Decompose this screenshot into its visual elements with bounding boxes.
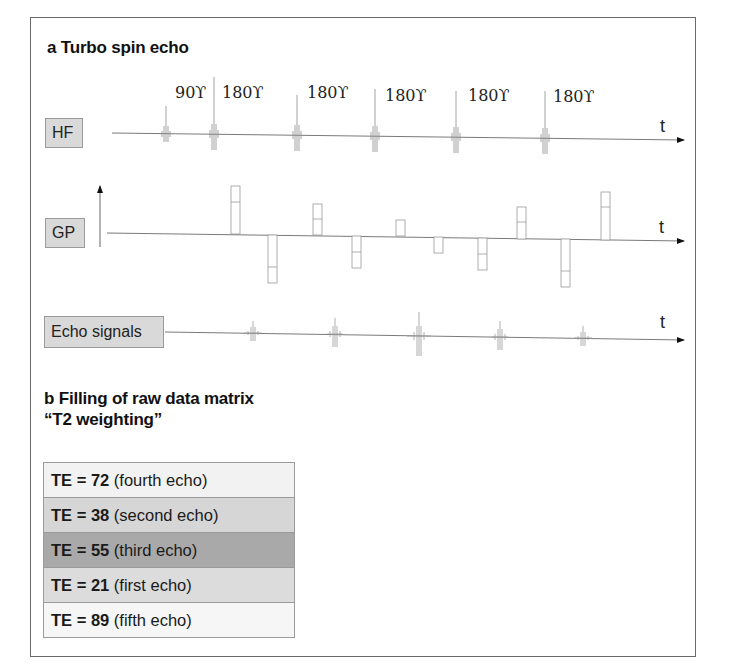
te-prefix: TE = bbox=[51, 611, 91, 629]
te-row-second-echo: TE = 38 (second echo) bbox=[44, 498, 294, 533]
gradient-lobe-4 bbox=[352, 236, 361, 268]
rf-pulse-90 bbox=[162, 106, 170, 142]
gradient-lobe-6 bbox=[434, 237, 443, 253]
te-prefix: TE = bbox=[51, 541, 91, 559]
rf-pulse-180-1 bbox=[210, 77, 218, 150]
te-value: 72 bbox=[91, 471, 109, 489]
rf-pulses bbox=[162, 77, 549, 154]
te-row-fourth-echo: TE = 72 (fourth echo) bbox=[44, 463, 294, 498]
gradient-lobe-2 bbox=[268, 235, 277, 283]
echo-4 bbox=[492, 321, 508, 350]
te-note: (fifth echo) bbox=[109, 611, 192, 629]
gradient-lobe-5 bbox=[396, 220, 405, 236]
hf-axis bbox=[112, 133, 684, 140]
gradient-lobe-7 bbox=[478, 238, 487, 270]
te-prefix: TE = bbox=[51, 576, 91, 594]
echo-1 bbox=[244, 321, 262, 341]
te-note: (second echo) bbox=[109, 506, 218, 524]
gradient-lobe-10 bbox=[601, 192, 610, 240]
rf-pulse-180-5 bbox=[541, 91, 549, 154]
gradient-lobe-1 bbox=[231, 186, 240, 234]
te-prefix: TE = bbox=[51, 506, 91, 524]
rf-pulse-180-4 bbox=[452, 91, 460, 153]
te-note: (third echo) bbox=[109, 541, 197, 559]
te-row-fifth-echo: TE = 89 (fifth echo) bbox=[44, 603, 294, 637]
echo-5 bbox=[574, 326, 592, 346]
gp-axis bbox=[107, 233, 684, 241]
gradient-lobe-8 bbox=[517, 207, 526, 239]
te-row-first-echo: TE = 21 (first echo) bbox=[44, 568, 294, 603]
rf-pulse-180-2 bbox=[293, 95, 301, 151]
echo-3 bbox=[407, 312, 431, 356]
te-value: 89 bbox=[91, 611, 109, 629]
raw-data-matrix-table: TE = 72 (fourth echo) TE = 38 (second ec… bbox=[43, 462, 295, 638]
te-note: (first echo) bbox=[109, 576, 192, 594]
gradient-lobe-3 bbox=[313, 204, 322, 235]
section-b-title-line1: b Filling of raw data matrix bbox=[44, 389, 254, 409]
te-value: 21 bbox=[91, 576, 109, 594]
echo-2 bbox=[327, 318, 343, 347]
gradient-lobe-9 bbox=[561, 239, 570, 287]
rf-pulse-180-3 bbox=[371, 89, 379, 152]
phase-gradient-lobes bbox=[231, 186, 610, 287]
te-prefix: TE = bbox=[51, 471, 91, 489]
section-b-title-line2: “T2 weighting” bbox=[44, 410, 162, 430]
te-value: 38 bbox=[91, 506, 109, 524]
te-row-third-echo: TE = 55 (third echo) bbox=[44, 533, 294, 568]
te-note: (fourth echo) bbox=[109, 471, 207, 489]
te-value: 55 bbox=[91, 541, 109, 559]
